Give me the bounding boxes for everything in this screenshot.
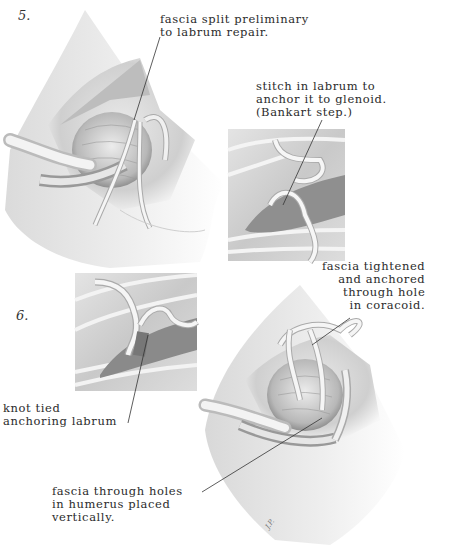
- step5-shoulder-drawing: [5, 10, 225, 268]
- step-number-6: 6.: [16, 308, 28, 323]
- annotation-stitch-labrum: stitch in labrum to anchor it to glenoid…: [256, 80, 387, 119]
- surgical-illustration-page: 5. 6. fascia split preliminary to labrum…: [0, 0, 451, 547]
- step6-shoulder-drawing: [205, 285, 405, 545]
- annotation-fascia-split: fascia split preliminary to labrum repai…: [160, 13, 309, 39]
- annotation-knot-tied: knot tied anchoring labrum: [3, 402, 117, 428]
- step5-inset-drawing: [228, 129, 345, 262]
- annotation-fascia-holes-humerus: fascia through holes in humerus placed v…: [52, 485, 183, 524]
- step-number-5: 5.: [18, 8, 30, 23]
- step6-inset-drawing: [75, 273, 197, 391]
- annotation-fascia-tightened: fascia tightened and anchored through ho…: [322, 260, 425, 312]
